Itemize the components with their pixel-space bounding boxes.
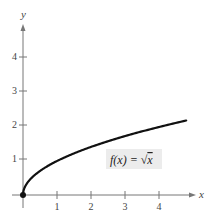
x-axis-label: x [198,188,204,200]
x-axis-arrow-icon [189,193,196,198]
y-axis-label: y [20,8,26,20]
x-tick-label-3: 3 [123,201,128,212]
y-tick-label-3: 3 [12,85,17,96]
origin-point-icon [20,192,26,198]
y-axis-arrow-icon [21,24,26,31]
x-tick-label-4: 4 [157,201,162,212]
x-tick-label-2: 2 [89,201,94,212]
chart-canvas: y x 1 2 3 4 1 2 3 4 f(x) = √x [0,0,206,222]
y-tick-label-1: 1 [12,153,17,164]
y-tick-label-4: 4 [12,51,17,62]
x-tick-label-1: 1 [55,201,60,212]
y-tick-label-2: 2 [12,119,17,130]
function-label: f(x) = √x [110,153,153,167]
